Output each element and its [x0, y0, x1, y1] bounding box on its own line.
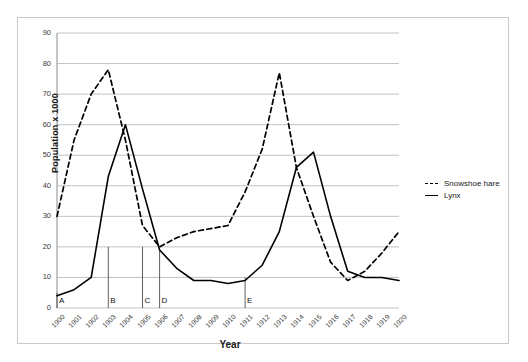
legend-swatch-dashed-icon	[424, 179, 440, 189]
y-tick-label: 30	[25, 211, 51, 220]
legend-label: Lynx	[444, 191, 461, 201]
x-axis-title: Year	[0, 339, 460, 350]
annotation-label-c: C	[145, 296, 151, 305]
y-tick-label: 60	[25, 120, 51, 129]
annotation-label-b: B	[110, 296, 115, 305]
legend-swatch-solid-icon	[424, 191, 440, 201]
chart-figure: 0102030405060708090 19001901190219031904…	[0, 0, 528, 362]
y-tick-label: 10	[25, 272, 51, 281]
y-tick-label: 50	[25, 150, 51, 159]
annotation-label-d: D	[162, 296, 168, 305]
chart-legend: Snowshoe hare Lynx	[424, 178, 500, 202]
y-tick-label: 20	[25, 242, 51, 251]
annotation-label-e: E	[247, 296, 252, 305]
y-tick-label: 90	[25, 28, 51, 37]
annotation-label-a: A	[59, 296, 64, 305]
y-tick-label: 0	[25, 303, 51, 312]
legend-item-lynx: Lynx	[424, 190, 500, 202]
y-tick-label: 70	[25, 89, 51, 98]
legend-label: Snowshoe hare	[444, 179, 500, 189]
legend-item-snowshoe-hare: Snowshoe hare	[424, 178, 500, 190]
y-tick-label: 40	[25, 181, 51, 190]
y-axis-title: Population x 1000	[50, 73, 60, 193]
y-tick-label: 80	[25, 59, 51, 68]
